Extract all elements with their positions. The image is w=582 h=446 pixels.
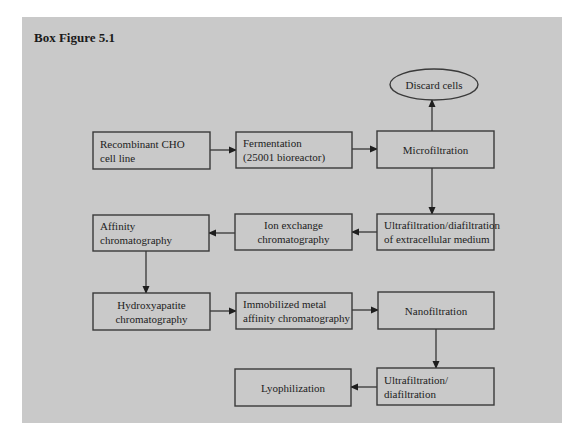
node-label-affinity: Affinitychromatography bbox=[100, 219, 208, 247]
node-label-line: Immobilized metal bbox=[243, 297, 351, 311]
node-label-imac: Immobilized metalaffinity chromatography bbox=[243, 297, 351, 325]
node-label-line: affinity chromatography bbox=[243, 311, 351, 325]
node-label-line: Recombinant CHO bbox=[100, 137, 209, 151]
node-label-line: Ultrafiltration/diafiltration bbox=[384, 218, 493, 232]
node-label-discard: Discard cells bbox=[390, 78, 478, 92]
node-label-micro: Microfiltration bbox=[377, 143, 494, 157]
node-label-line: cell line bbox=[100, 151, 209, 165]
node-label-line: Nanofiltration bbox=[378, 304, 494, 318]
node-label-line: Ion exchange bbox=[235, 218, 352, 232]
node-label-ufdf2: Ultrafiltration/diafiltration bbox=[384, 373, 493, 401]
node-label-cho: Recombinant CHOcell line bbox=[100, 137, 209, 165]
node-label-line: Discard cells bbox=[390, 78, 478, 92]
node-label-hydroxy: Hydroxyapatitechromatography bbox=[93, 298, 210, 326]
node-label-ufdf1: Ultrafiltration/diafiltrationof extracel… bbox=[384, 218, 493, 246]
node-label-line: Ultrafiltration/ bbox=[384, 373, 493, 387]
node-label-line: diafiltration bbox=[384, 387, 493, 401]
node-label-lyo: Lyophilization bbox=[235, 381, 351, 395]
node-label-line: chromatography bbox=[100, 233, 208, 247]
node-label-line: chromatography bbox=[93, 312, 210, 326]
node-label-line: Affinity bbox=[100, 219, 208, 233]
node-label-line: Hydroxyapatite bbox=[93, 298, 210, 312]
node-label-ferm: Fermentation(25001 bioreactor) bbox=[243, 136, 351, 164]
node-label-line: (25001 bioreactor) bbox=[243, 150, 351, 164]
node-label-nano: Nanofiltration bbox=[378, 304, 494, 318]
node-label-ionex: Ion exchangechromatography bbox=[235, 218, 352, 246]
node-label-line: chromatography bbox=[235, 232, 352, 246]
node-label-line: of extracellular medium bbox=[384, 232, 493, 246]
node-label-line: Fermentation bbox=[243, 136, 351, 150]
node-label-line: Lyophilization bbox=[235, 381, 351, 395]
node-label-line: Microfiltration bbox=[377, 143, 494, 157]
